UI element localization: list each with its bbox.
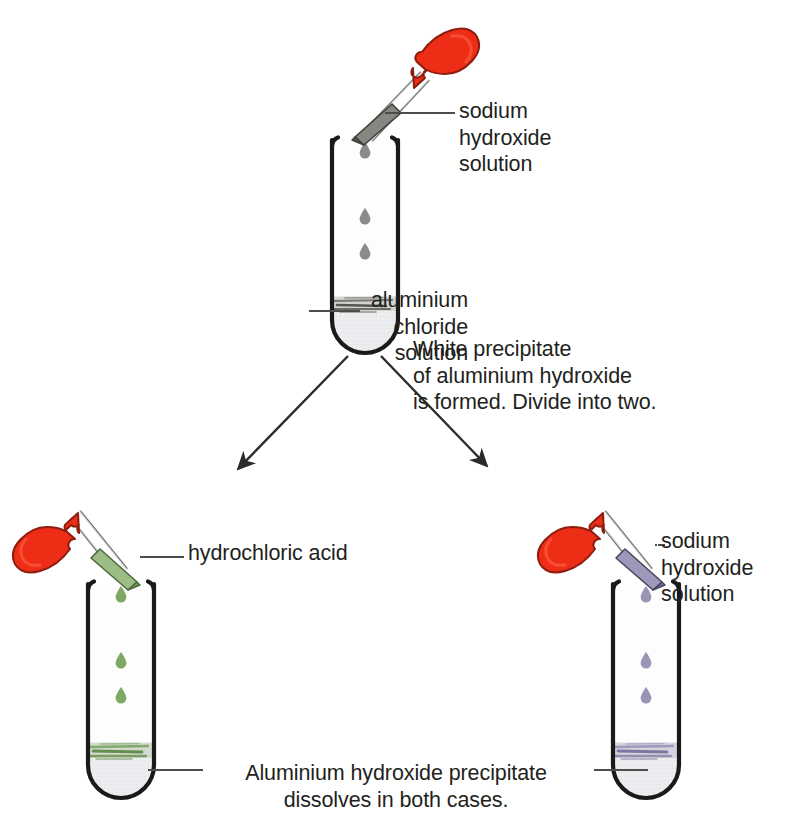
label-sodium-hydroxide-bottom: sodium hydroxide solution bbox=[661, 528, 753, 608]
split-arrow-left bbox=[238, 356, 348, 469]
diagram-artwork bbox=[0, 0, 793, 840]
dropper-bottom-left bbox=[13, 511, 140, 590]
diagram-canvas: sodium hydroxide solution aluminium chlo… bbox=[0, 0, 793, 840]
label-white-precipitate: White precipitate of aluminium hydroxide… bbox=[413, 336, 656, 416]
label-sodium-hydroxide-top: sodium hydroxide solution bbox=[459, 98, 551, 178]
tube-bl-precipitate bbox=[82, 743, 160, 759]
label-hydrochloric-acid: hydrochloric acid bbox=[188, 540, 348, 567]
caption-aluminium-hydroxide-dissolves: Aluminium hydroxide precipitate dissolve… bbox=[146, 760, 646, 813]
tube-br-precipitate bbox=[607, 743, 685, 759]
dropper-bottom-right bbox=[538, 511, 665, 590]
